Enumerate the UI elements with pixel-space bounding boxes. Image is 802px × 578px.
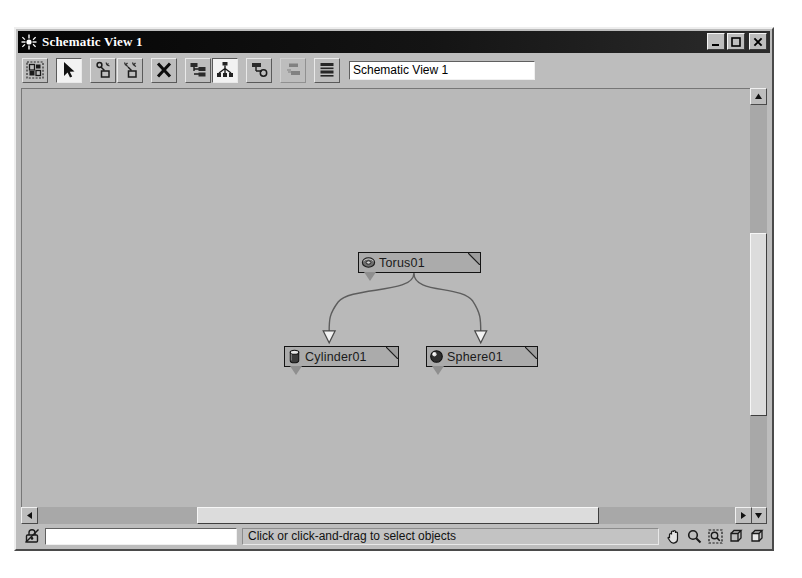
scroll-down-button[interactable] (750, 507, 767, 524)
toolbar-separator (273, 58, 280, 83)
select-arrow-icon[interactable] (56, 58, 82, 83)
vertical-scrollbar-thumb[interactable] (750, 233, 767, 416)
sun-starburst-icon (21, 34, 37, 50)
node-sphere01[interactable]: Sphere01 (426, 346, 538, 367)
status-command-input[interactable] (45, 528, 237, 545)
window-controls (707, 33, 767, 50)
node-fold-corner-icon (525, 347, 537, 359)
scroll-right-button[interactable] (735, 507, 752, 524)
disconnect-link-icon[interactable] (117, 58, 143, 83)
link-torus01-sphere01 (414, 273, 481, 332)
arrange-children-icon[interactable] (280, 58, 306, 83)
scroll-up-button[interactable] (750, 88, 767, 105)
connect-link-icon[interactable] (90, 58, 116, 83)
delete-objects-icon[interactable] (151, 58, 177, 83)
maximize-button[interactable] (727, 33, 745, 50)
node-expand-triangle[interactable] (364, 272, 376, 281)
toolbar-separator (83, 58, 90, 83)
scroll-left-button[interactable] (21, 507, 38, 524)
vertical-scrollbar[interactable] (750, 88, 767, 524)
link-torus01-cylinder01 (329, 273, 414, 332)
node-label: Sphere01 (447, 350, 503, 364)
node-fold-corner-icon (386, 347, 398, 359)
cylinder-icon (287, 349, 302, 364)
zoom-extents-selected-icon[interactable] (747, 527, 767, 546)
link-curves-layer (22, 89, 751, 523)
statusbar: Click or click-and-drag to select object… (18, 525, 770, 547)
node-expand-triangle[interactable] (290, 366, 302, 375)
close-button[interactable] (749, 33, 767, 50)
node-expand-triangle[interactable] (432, 366, 444, 375)
zoom-magnifier-icon[interactable] (684, 527, 704, 546)
node-cylinder01[interactable]: Cylinder01 (284, 346, 399, 367)
status-message: Click or click-and-drag to select object… (242, 528, 659, 545)
node-torus01[interactable]: Torus01 (358, 252, 481, 273)
view-name-input[interactable]: Schematic View 1 (349, 61, 535, 80)
horizontal-scrollbar[interactable] (21, 507, 752, 524)
link-arrow-sphere01 (475, 331, 487, 343)
view-navigation-tools (663, 527, 767, 546)
window-title: Schematic View 1 (42, 34, 143, 50)
node-label: Cylinder01 (305, 350, 367, 364)
toolbar-separator (49, 58, 56, 83)
pan-hand-icon[interactable] (663, 527, 683, 546)
window-titlebar[interactable]: Schematic View 1 (18, 31, 770, 53)
screenshot-root: Schematic View 1 (0, 0, 802, 578)
horizontal-scrollbar-thumb[interactable] (197, 507, 599, 524)
free-all-icon[interactable] (314, 58, 340, 83)
sphere-icon (429, 349, 444, 364)
reference-mode-icon[interactable] (212, 58, 238, 83)
zoom-region-icon[interactable] (705, 527, 725, 546)
toolbar-separator (307, 58, 314, 83)
schematic-view-window: Schematic View 1 (14, 27, 774, 551)
hierarchy-mode-icon[interactable] (185, 58, 211, 83)
node-fold-corner-icon (468, 253, 480, 265)
toolbar-separator (239, 58, 246, 83)
node-label: Torus01 (379, 256, 425, 270)
link-arrow-cylinder01 (323, 331, 335, 343)
minimize-button[interactable] (707, 33, 725, 50)
schematic-canvas[interactable]: Torus01 Cylinder01 (21, 88, 752, 524)
zoom-extents-icon[interactable] (726, 527, 746, 546)
torus-icon (361, 255, 376, 270)
always-arrange-icon[interactable] (246, 58, 272, 83)
toolbar-separator (178, 58, 185, 83)
lock-selection-icon[interactable] (21, 526, 43, 546)
toolbar-separator (144, 58, 151, 83)
toolbar: Schematic View 1 (18, 55, 770, 85)
display-floater-icon[interactable] (22, 58, 48, 83)
